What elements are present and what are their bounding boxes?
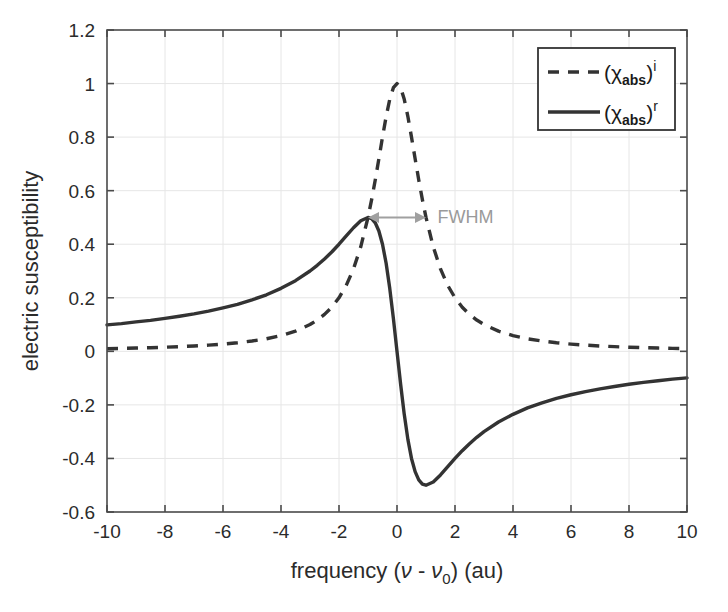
x-title-nu0: ν [431,558,442,583]
x-tick-label: -10 [93,521,120,542]
y-tick-label: 0 [84,341,95,362]
legend-superscript: i [653,58,656,74]
legend-superscript: r [653,98,658,114]
x-tick-label: 8 [624,521,635,542]
x-tick-label: -6 [215,521,232,542]
y-axis-title: electric susceptibility [18,171,43,372]
x-tick-label: 6 [566,521,577,542]
x-tick-label: -8 [157,521,174,542]
y-tick-label: 0.6 [69,181,95,202]
x-tick-label: 2 [450,521,461,542]
y-tick-label: 0.4 [69,234,96,255]
x-tick-label: 4 [508,521,519,542]
x-tick-label: -2 [331,521,348,542]
x-tick-label: -4 [273,521,290,542]
y-tick-label: 0.2 [69,288,95,309]
x-title-minus: - [412,558,432,583]
x-tick-label: 0 [392,521,403,542]
y-tick-label: -0.4 [62,448,95,469]
x-axis-title: frequency (ν - ν0) (au) [291,558,504,587]
legend-chi-symbol: (χ [604,61,622,84]
chart-figure: -10-8-6-4-20246810 -0.6-0.4-0.200.20.40.… [0,0,728,612]
x-title-suffix: ) (au) [451,558,504,583]
x-title-nu: ν [401,558,412,583]
y-tick-label: 1 [84,74,95,95]
legend-paren-close: ) [646,61,653,84]
legend-subscript: abs [622,72,646,88]
x-title-nu0-subscript: 0 [442,570,450,587]
legend: (χabs)i(χabs)r [538,48,675,130]
y-tick-label: 1.2 [69,20,95,41]
legend-subscript: abs [622,112,646,128]
y-tick-label: -0.2 [62,395,95,416]
plot-canvas: -10-8-6-4-20246810 -0.6-0.4-0.200.20.40.… [0,0,728,612]
legend-paren-close: ) [646,101,653,124]
x-title-prefix: frequency ( [291,558,402,583]
fwhm-label: FWHM [438,207,494,227]
y-tick-label: 0.8 [69,127,95,148]
x-tick-label: 10 [676,521,697,542]
y-tick-label: -0.6 [62,502,95,523]
legend-chi-symbol: (χ [604,101,622,124]
